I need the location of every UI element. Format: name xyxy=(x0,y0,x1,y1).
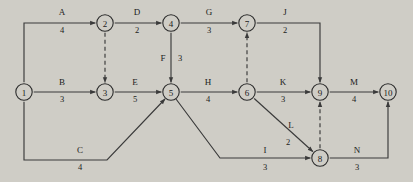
node-3: 3 xyxy=(97,84,113,100)
node-label-6: 6 xyxy=(245,88,250,98)
edge-label-I: I xyxy=(264,145,267,155)
node-7: 7 xyxy=(239,15,255,31)
node-label-2: 2 xyxy=(103,19,108,29)
edge-label-E: E xyxy=(132,77,138,87)
edge-duration-K: 3 xyxy=(281,94,285,104)
node-9: 9 xyxy=(312,84,328,100)
edge-label-N: N xyxy=(354,145,361,155)
node-6: 6 xyxy=(239,84,255,100)
edge-duration-M: 4 xyxy=(352,94,357,104)
node-5: 5 xyxy=(163,84,179,100)
node-2: 2 xyxy=(97,15,113,31)
edge-duration-N: 3 xyxy=(355,162,359,172)
edge-label-L: L xyxy=(288,120,294,130)
edge-duration-B: 3 xyxy=(60,94,64,104)
edge-label-M: M xyxy=(350,77,358,87)
dummy-edges-layer xyxy=(105,33,320,149)
node-1: 1 xyxy=(16,84,32,100)
edge-duration-D: 2 xyxy=(135,25,139,35)
edge-duration-H: 4 xyxy=(206,94,211,104)
node-10: 10 xyxy=(380,84,396,100)
edge-duration-F: 3 xyxy=(178,53,182,63)
edge-C xyxy=(24,99,165,160)
edge-duration-J: 2 xyxy=(283,25,287,35)
edge-L xyxy=(254,99,313,152)
node-label-8: 8 xyxy=(318,154,323,164)
node-label-10: 10 xyxy=(384,88,394,98)
edge-duration-G: 3 xyxy=(207,25,211,35)
edge-label-C: C xyxy=(77,145,83,155)
node-8: 8 xyxy=(312,150,328,166)
node-label-1: 1 xyxy=(22,88,27,98)
edge-label-J: J xyxy=(283,7,287,17)
edge-duration-A: 4 xyxy=(60,25,65,35)
edge-label-G: G xyxy=(206,7,213,17)
node-label-9: 9 xyxy=(318,88,323,98)
network-diagram: 12345678910 A4B3C4D2E5F3G3H4I3J2K3L2M4N3 xyxy=(0,0,413,182)
node-label-5: 5 xyxy=(169,88,174,98)
edge-duration-I: 3 xyxy=(263,162,267,172)
edge-label-K: K xyxy=(280,77,287,87)
edge-label-D: D xyxy=(134,7,141,17)
edges-layer xyxy=(24,23,388,160)
edge-J xyxy=(257,23,320,82)
edge-duration-L: 2 xyxy=(286,137,290,147)
edge-duration-C: 4 xyxy=(78,162,83,172)
edge-label-A: A xyxy=(59,7,66,17)
node-label-3: 3 xyxy=(103,88,108,98)
edge-duration-E: 5 xyxy=(133,94,137,104)
edge-label-B: B xyxy=(59,77,65,87)
edge-label-H: H xyxy=(205,77,212,87)
node-4: 4 xyxy=(163,15,179,31)
node-label-7: 7 xyxy=(245,19,250,29)
edge-label-F: F xyxy=(160,53,165,63)
node-label-4: 4 xyxy=(169,19,174,29)
nodes-layer: 12345678910 xyxy=(16,15,396,166)
network-diagram-canvas: 12345678910 A4B3C4D2E5F3G3H4I3J2K3L2M4N3 xyxy=(0,0,413,182)
